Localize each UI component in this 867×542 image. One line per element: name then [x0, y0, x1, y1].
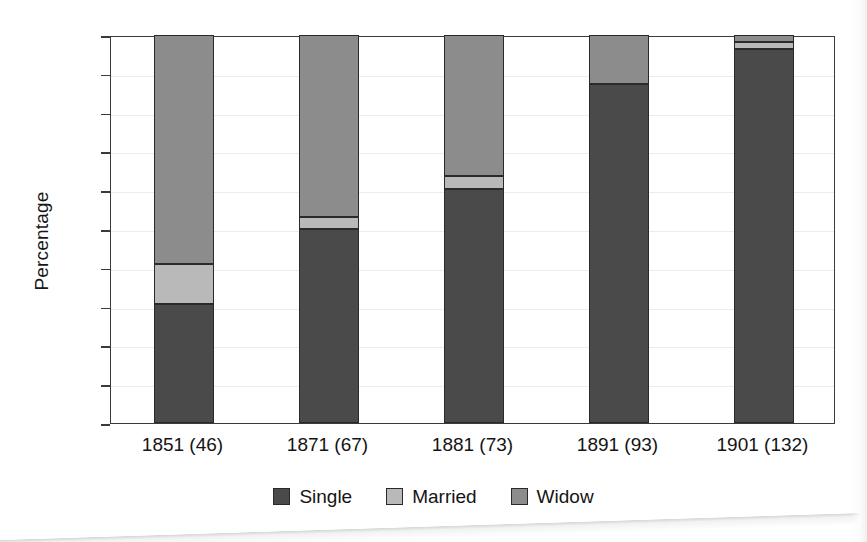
bar-segment-single[interactable] [299, 229, 359, 423]
y-tick-mark [101, 230, 110, 232]
y-tick-mark [101, 75, 110, 77]
bar-slot [401, 37, 546, 423]
stacked-bar[interactable] [154, 37, 214, 423]
stacked-bar[interactable] [734, 37, 794, 423]
plot-area [110, 36, 835, 424]
x-tick-label: 1891 (93) [545, 434, 690, 456]
legend-item-widow[interactable]: Widow [511, 487, 594, 506]
bar-segment-single[interactable] [444, 189, 504, 423]
bar-slot [111, 37, 256, 423]
bar-segment-married[interactable] [734, 42, 794, 49]
bar-segment-single[interactable] [154, 304, 214, 423]
legend-swatch-icon [386, 488, 403, 505]
bar-segment-widow[interactable] [589, 35, 649, 84]
y-tick-mark [101, 36, 110, 38]
y-tick-mark [101, 346, 110, 348]
y-axis-title: Percentage [31, 47, 53, 435]
bar-segment-married[interactable] [299, 217, 359, 229]
y-tick-mark [101, 114, 110, 116]
y-tick-mark [101, 308, 110, 310]
legend-label: Single [299, 487, 352, 506]
y-tick-mark [101, 269, 110, 271]
bar-segment-married[interactable] [444, 176, 504, 189]
legend-swatch-icon [511, 488, 528, 505]
bar-slot [546, 37, 691, 423]
x-tick-label: 1851 (46) [110, 434, 255, 456]
chart-legend: SingleMarriedWidow [0, 487, 867, 506]
x-tick-label: 1871 (67) [255, 434, 400, 456]
legend-item-single[interactable]: Single [273, 487, 352, 506]
bar-segment-widow[interactable] [444, 35, 504, 176]
bar-slot [691, 37, 836, 423]
bar-segment-widow[interactable] [299, 35, 359, 217]
legend-label: Married [412, 487, 476, 506]
legend-swatch-icon [273, 488, 290, 505]
y-tick-mark [101, 424, 110, 426]
bar-segment-single[interactable] [734, 49, 794, 423]
bar-segment-widow[interactable] [154, 35, 214, 264]
bar-slot [256, 37, 401, 423]
stacked-bar[interactable] [299, 37, 359, 423]
y-tick-mark [101, 191, 110, 193]
legend-item-married[interactable]: Married [386, 487, 476, 506]
x-tick-label: 1901 (132) [690, 434, 835, 456]
bar-segment-widow[interactable] [734, 35, 794, 42]
legend-label: Widow [537, 487, 594, 506]
bar-segment-married[interactable] [154, 264, 214, 304]
y-tick-mark [101, 385, 110, 387]
page-scan-edge-right [851, 0, 867, 542]
page-scan-edge-bottom [0, 508, 867, 542]
stacked-bar[interactable] [589, 37, 649, 423]
stacked-bar[interactable] [444, 37, 504, 423]
x-tick-label: 1881 (73) [400, 434, 545, 456]
y-tick-mark [101, 152, 110, 154]
bar-segment-single[interactable] [589, 84, 649, 423]
chart-figure: Percentage 0102030405060708090100 1851 (… [0, 0, 867, 542]
